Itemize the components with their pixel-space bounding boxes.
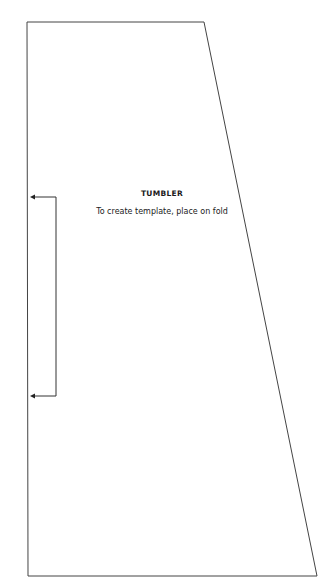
template-title: TUMBLER (90, 189, 234, 198)
tumbler-template-outline (0, 0, 330, 586)
template-instruction: To create template, place on fold (60, 207, 264, 216)
template-shape (27, 22, 317, 576)
